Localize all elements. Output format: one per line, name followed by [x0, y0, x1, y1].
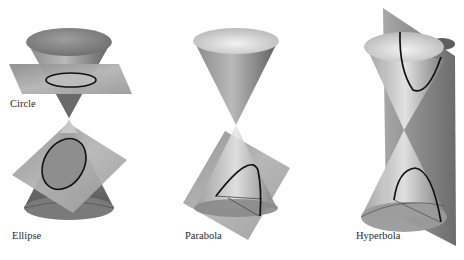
parabola-diagram — [183, 28, 290, 240]
circle-label: Circle — [10, 99, 36, 110]
ellipse-diagram — [12, 120, 127, 220]
circle-curve — [46, 73, 96, 87]
hyperbola-label: Hyperbola — [356, 231, 400, 242]
parabola-label: Parabola — [185, 231, 222, 242]
conic-sections-figure — [0, 0, 464, 260]
ellipse-label: Ellipse — [12, 231, 41, 242]
hyperbola-diagram — [361, 8, 456, 246]
